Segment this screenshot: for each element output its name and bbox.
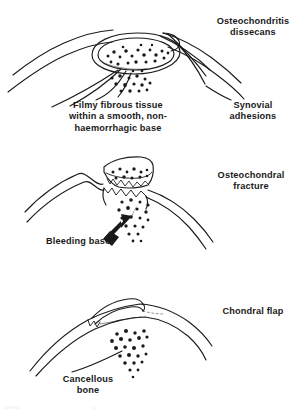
chondral-flap-tip <box>143 304 145 311</box>
fracture-condyle-lower-left <box>27 182 104 222</box>
label-chondral-flap: Chondral flap <box>205 306 301 317</box>
flap-condyle-subchondral <box>36 317 206 376</box>
crater-stipple <box>107 44 170 66</box>
fragment-jagged-edge <box>107 179 149 187</box>
fracture-condyle-upper-right <box>148 190 213 242</box>
defect-wall-right <box>146 196 148 209</box>
fracture-condyle-lower-right <box>146 197 206 249</box>
label-cancellous-bone: Cancellous bone <box>44 374 132 397</box>
scan-artifact <box>4 406 20 409</box>
label-osteochondral-fracture: Osteochondral fracture <box>203 170 299 193</box>
flap-defect-floor <box>100 317 141 324</box>
label-osteochondritis-dissecans: Osteochondritis dissecans <box>205 16 301 39</box>
cartilage-lesions-figure: Osteochondritis dissecans Filmy fibrous … <box>0 0 301 415</box>
leader-cancellous <box>72 351 122 372</box>
flap-shadow-line <box>143 311 164 314</box>
label-synovial-adhesions: Synovial adhesions <box>209 100 297 123</box>
defect-jagged-rim <box>104 188 146 197</box>
fragment-outline <box>104 157 153 188</box>
leader-synovial <box>206 86 231 100</box>
figure-linework <box>0 0 301 415</box>
fracture-condyle-upper-left <box>25 173 103 212</box>
scan-artifact <box>92 407 97 410</box>
panel-chondral-flap <box>30 299 212 379</box>
label-filmy-fibrous-tissue: Filmy fibrous tissue within a smooth, no… <box>44 100 192 134</box>
label-bleeding-base: Bleeding base <box>46 236 138 247</box>
panel-osteochondritis-dissecans <box>8 30 244 107</box>
